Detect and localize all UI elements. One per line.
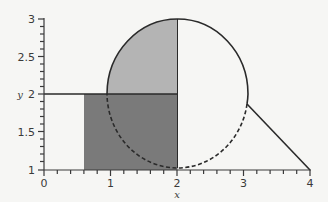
x-axis-label: x xyxy=(174,189,180,200)
x-tick-0: 0 xyxy=(41,177,48,190)
y-axis xyxy=(38,18,44,170)
y-axis-label: y xyxy=(16,89,23,100)
x-tick-3: 3 xyxy=(240,177,247,190)
y-tick-3: 3 xyxy=(28,13,35,26)
x-tick-1: 1 xyxy=(107,177,114,190)
y-tick-1: 1 xyxy=(28,164,35,177)
y-tick-2-5: 2.5 xyxy=(18,51,36,64)
y-tick-2: 2 xyxy=(28,88,35,101)
y-tick-1-5: 1.5 xyxy=(18,126,36,139)
x-axis xyxy=(44,170,311,176)
x-tick-4: 4 xyxy=(307,177,314,190)
tangent-line xyxy=(247,104,310,170)
dark-rectangle xyxy=(84,94,178,170)
diagram: 3 2.5 2 1.5 1 y 0 1 2 3 4 x xyxy=(0,0,328,202)
light-sector xyxy=(107,19,178,94)
